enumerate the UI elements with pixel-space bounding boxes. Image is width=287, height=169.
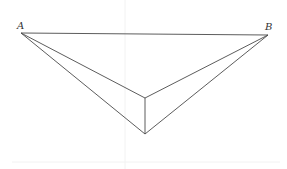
segment-b-upper bbox=[145, 35, 268, 98]
segment-a-upper bbox=[21, 33, 145, 98]
label-b: B bbox=[264, 21, 272, 32]
background-grid bbox=[12, 0, 280, 169]
segment-a-lower bbox=[21, 33, 145, 134]
segment-ab bbox=[21, 33, 268, 35]
geometry-figure: A B bbox=[0, 0, 287, 169]
segment-b-lower bbox=[145, 35, 268, 134]
label-a: A bbox=[16, 20, 24, 31]
diagram-canvas: A B bbox=[0, 0, 287, 169]
